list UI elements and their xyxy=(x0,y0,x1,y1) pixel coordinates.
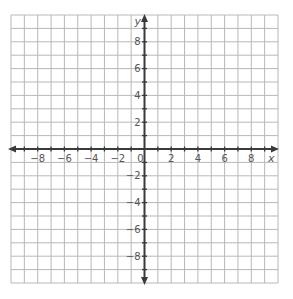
y-tick-label: 8 xyxy=(134,36,140,47)
x-tick-label: 6 xyxy=(221,153,227,164)
y-tick-label: 6 xyxy=(134,63,140,74)
y-tick-label: 4 xyxy=(134,90,140,101)
x-tick-label: 2 xyxy=(168,153,174,164)
y-tick-label: 2 xyxy=(134,117,140,128)
x-axis-label: x xyxy=(267,152,275,165)
x-tick-label: −2 xyxy=(110,153,125,164)
y-axis-label: y xyxy=(134,15,142,28)
y-tick-label: −8 xyxy=(126,251,141,262)
x-axis-left-arrow-icon xyxy=(8,146,16,153)
y-tick-label: −6 xyxy=(126,224,141,235)
y-tick-label: −2 xyxy=(126,170,141,181)
x-tick-label: −8 xyxy=(30,153,45,164)
x-tick-label: 0 xyxy=(137,153,143,164)
x-tick-label: 4 xyxy=(195,153,201,164)
coordinate-plane: −8−6−4−2024688642−2−4−6−8 x y xyxy=(0,0,293,299)
y-axis-down-arrow-icon xyxy=(141,277,148,285)
x-tick-label: −4 xyxy=(84,153,99,164)
x-tick-label: 8 xyxy=(248,153,254,164)
y-tick-label: −4 xyxy=(126,197,141,208)
x-tick-label: −6 xyxy=(57,153,72,164)
